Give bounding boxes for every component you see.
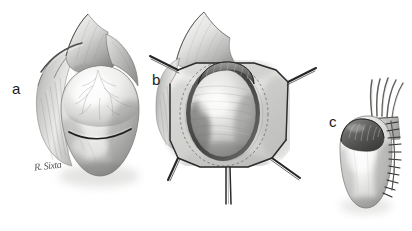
panel-label-a: a [12,81,20,96]
surgical-illustration-canvas [0,0,412,231]
figure-root: a b c R. Sixta [0,0,412,231]
panel-label-b: b [152,72,160,87]
panel-label-c: c [329,114,337,129]
